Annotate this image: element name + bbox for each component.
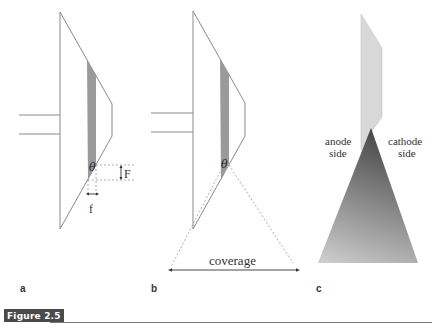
focal-height-label: F [124,167,131,181]
arrowhead-icon [120,165,123,168]
panel-b-diagram: θ coverage [151,11,300,272]
anode-side-label-line1: anode [325,135,351,147]
panel-c-label: c [316,283,322,294]
arrowhead-icon [86,193,89,196]
cathode-side-label-line2: side [398,147,416,159]
panel-b-label: b [151,283,157,294]
arrowhead-icon [120,177,123,180]
anode-body-outline [60,12,112,229]
caption-divider [50,322,432,323]
arrowhead-icon [296,268,300,271]
figure-caption-badge: Figure 2.5 [4,309,64,322]
arrowhead-icon [96,193,99,196]
coverage-label: coverage [209,253,256,268]
anode-side-label-line2: side [329,147,347,159]
cathode-side-label-line1: cathode [388,135,422,147]
panel-c-diagram: anode side cathode side [318,14,422,263]
panel-a-label: a [20,283,26,294]
arrowhead-icon [168,268,172,271]
anode-body-outline [193,11,245,229]
focal-width-label: f [89,202,93,216]
angle-theta-label: θ [89,161,96,174]
panel-a-diagram: θ F f [19,12,136,229]
figure-canvas: θ F f θ coverage anode side cathode side [0,0,432,332]
coverage-edge-right [229,165,293,263]
angle-theta-label: θ [221,158,228,171]
